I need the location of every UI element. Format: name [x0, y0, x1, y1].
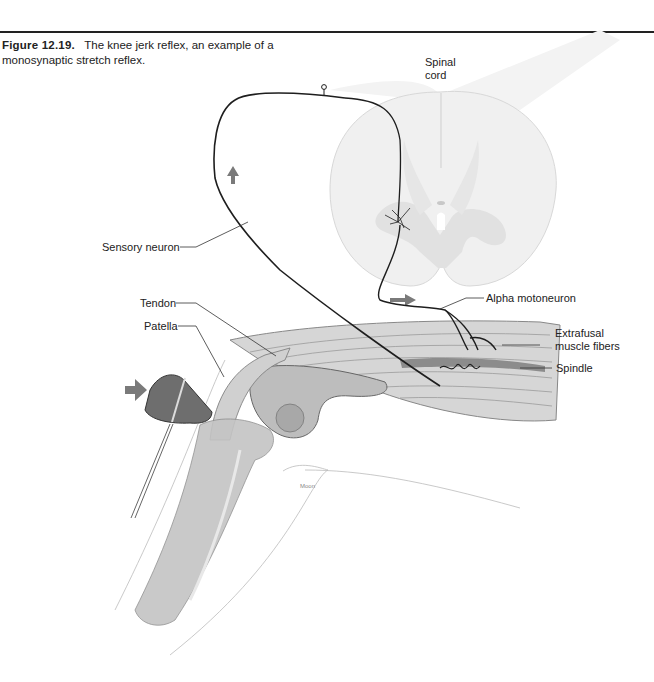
- label-tendon: Tendon: [140, 297, 176, 310]
- label-extrafusal-muscle-fibers: Extrafusal muscle fibers: [555, 327, 620, 353]
- strike-arrow-icon: [125, 379, 147, 401]
- afferent-arrow-icon: [227, 166, 239, 184]
- label-sensory-neuron: Sensory neuron: [102, 241, 180, 254]
- label-alpha-motoneuron: Alpha motoneuron: [486, 292, 576, 305]
- label-spindle: Spindle: [556, 362, 593, 375]
- label-watermark: Moon: [300, 480, 315, 493]
- label-spinal-cord: Spinal cord: [425, 56, 456, 82]
- tibia: [135, 419, 274, 625]
- label-patella: Patella: [144, 320, 178, 333]
- femur: [250, 366, 387, 438]
- spinal-cord: [330, 30, 620, 286]
